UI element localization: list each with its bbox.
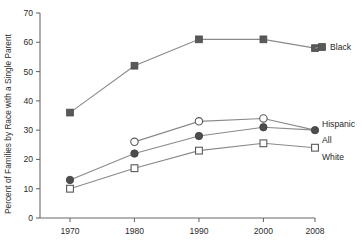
data-point-marker — [67, 109, 74, 116]
y-axis-tick-label: 10 — [23, 184, 33, 194]
y-axis-tick-label: 40 — [23, 96, 33, 106]
y-axis-tick-label: 60 — [23, 37, 33, 47]
series-lines-group — [70, 39, 315, 188]
data-point-marker — [131, 165, 138, 172]
legend-marker-black — [319, 44, 326, 51]
y-axis-tick-label: 0 — [28, 213, 33, 223]
data-point-marker — [260, 115, 267, 122]
legend-label-all: All — [322, 135, 332, 145]
data-point-marker — [131, 150, 138, 157]
data-point-marker — [260, 140, 267, 147]
data-point-marker — [260, 124, 267, 131]
x-axis-tick-label: 2008 — [305, 226, 324, 236]
legend-label-hispanic: Hispanic — [322, 119, 356, 129]
series-line-white — [70, 143, 315, 188]
chart-container: Percent of Families by Race with a Singl… — [0, 0, 362, 251]
single-parent-families-line-chart: Percent of Families by Race with a Singl… — [0, 0, 362, 251]
y-axis-tick-label: 20 — [23, 154, 33, 164]
data-point-marker — [67, 185, 74, 192]
y-axis-title-text: Percent of Families by Race with a Singl… — [3, 33, 13, 214]
series-line-hispanic — [134, 118, 315, 141]
series-markers-group — [66, 36, 318, 192]
x-axis: 19701980199020002008 — [40, 218, 325, 236]
data-point-marker — [131, 138, 138, 145]
data-point-marker — [260, 36, 267, 43]
y-axis: 010203040506070 — [23, 8, 40, 223]
data-point-marker — [131, 62, 138, 69]
data-point-marker — [195, 132, 202, 139]
x-axis-tick-label: 1990 — [189, 226, 208, 236]
series-line-black — [70, 39, 315, 112]
y-axis-title: Percent of Families by Race with a Singl… — [3, 33, 13, 214]
legend-label-white: White — [322, 152, 344, 162]
legend-label-black: Black — [330, 42, 352, 52]
y-axis-tick-label: 30 — [23, 125, 33, 135]
series-line-all — [70, 127, 315, 180]
y-axis-tick-label: 50 — [23, 67, 33, 77]
data-point-marker — [195, 118, 202, 125]
data-point-marker — [66, 176, 73, 183]
y-axis-tick-label: 70 — [23, 8, 33, 18]
data-point-marker — [196, 147, 203, 154]
data-point-marker — [311, 126, 318, 133]
x-axis-tick-label: 1980 — [125, 226, 144, 236]
chart-legend: BlackHispanicAllWhite — [315, 42, 356, 162]
x-axis-tick-label: 1970 — [60, 226, 79, 236]
data-point-marker — [196, 36, 203, 43]
data-point-marker — [312, 144, 319, 151]
x-axis-tick-label: 2000 — [254, 226, 273, 236]
